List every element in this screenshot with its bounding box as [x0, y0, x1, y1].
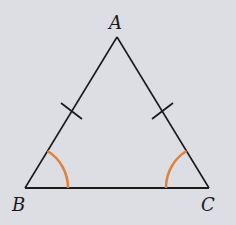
triangle-figure — [0, 0, 236, 225]
vertex-label-c: C — [201, 196, 215, 214]
side-ab — [25, 37, 117, 188]
angle-arc-c — [166, 151, 187, 188]
side-ac — [117, 37, 209, 188]
tick-mark-ab — [61, 103, 82, 119]
diagram-canvas: A B C — [0, 0, 236, 225]
tick-mark-ac — [152, 103, 173, 119]
vertex-label-b: B — [12, 196, 25, 214]
vertex-label-a: A — [109, 14, 122, 32]
angle-arc-b — [48, 151, 69, 188]
